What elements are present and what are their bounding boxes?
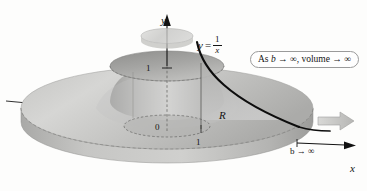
figure-canvas: y x 1 0 1 R b → ∞ y = 1 x As b → ∞, volu… xyxy=(0,0,367,191)
annotation-infinity-one: ∞ xyxy=(290,54,297,64)
b-limit-label: b → ∞ xyxy=(290,147,314,156)
solid-of-revolution-diagram xyxy=(0,0,367,191)
equation-equals: = xyxy=(205,39,211,51)
annotation-comma: , xyxy=(297,54,299,64)
curve-equation-label: y = 1 x xyxy=(198,35,222,56)
x-axis-arrowhead xyxy=(344,142,356,150)
y-axis-label: y xyxy=(161,15,166,26)
annotation-quantity: volume xyxy=(301,54,330,64)
y-axis-tick-label-1: 1 xyxy=(146,64,151,73)
annotation-variable: b xyxy=(271,54,276,64)
annotation-callout: As b → ∞, volume → ∞ xyxy=(250,51,359,68)
equation-fraction: 1 x xyxy=(213,35,222,56)
origin-label: 0 xyxy=(155,123,160,132)
rotation-indicator-disk xyxy=(141,29,193,44)
annotation-arrow-two: → xyxy=(332,54,342,64)
annotation-infinity-two: ∞ xyxy=(344,54,351,64)
x-axis-line xyxy=(297,143,345,145)
equation-denominator: x xyxy=(213,46,221,55)
annotation-prefix: As xyxy=(258,54,269,64)
extend-right-block-arrow xyxy=(318,112,354,130)
x-axis-label: x xyxy=(350,163,355,174)
equation-numerator: 1 xyxy=(213,35,222,44)
equation-lhs: y xyxy=(198,39,203,51)
region-label-R: R xyxy=(219,110,226,121)
annotation-arrow-one: → xyxy=(278,54,288,64)
x-axis-tick-label-1: 1 xyxy=(196,138,201,147)
